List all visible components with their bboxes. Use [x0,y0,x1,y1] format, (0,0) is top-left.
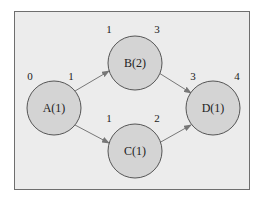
node-a: A(1) 0 1 [27,70,81,135]
node-c-label: C(1) [124,144,146,158]
node-b-label: B(2) [124,56,146,70]
network-diagram: A(1) 0 1 B(2) 1 3 C(1) 1 2 D(1) 3 4 [0,0,263,201]
node-d: D(1) 3 4 [186,70,240,135]
node-d-label: D(1) [202,101,225,115]
node-c: C(1) 1 2 [106,112,162,178]
edge-a-b [75,71,109,91]
node-d-end: 4 [234,70,240,82]
node-a-start: 0 [27,70,33,82]
edge-c-d [159,125,191,143]
node-c-start: 1 [106,112,112,124]
node-a-end: 1 [68,70,74,82]
node-c-end: 2 [154,112,160,124]
edge-a-c [75,125,109,143]
node-b: B(2) 1 3 [106,23,162,90]
node-b-end: 3 [154,23,160,35]
edge-b-d [159,73,191,93]
node-d-start: 3 [190,70,196,82]
node-b-start: 1 [106,23,112,35]
node-a-label: A(1) [43,101,66,115]
